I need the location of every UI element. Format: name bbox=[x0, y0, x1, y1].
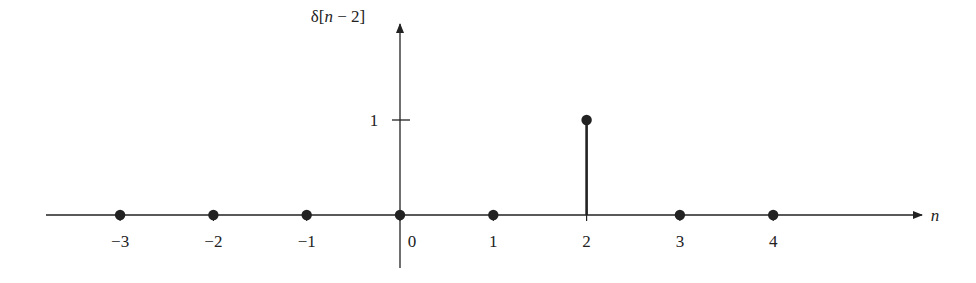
y-tick-label-1: 1 bbox=[370, 111, 379, 130]
stem-marker bbox=[302, 210, 312, 220]
stem-plot: 1 δ[n − 2] n −3−2−101234 bbox=[0, 0, 976, 283]
x-tick-labels: −3−2−101234 bbox=[111, 232, 778, 251]
stem-marker bbox=[395, 210, 405, 220]
x-tick-label: 3 bbox=[676, 232, 685, 251]
x-tick-label: −3 bbox=[111, 232, 129, 251]
x-axis-label: n bbox=[931, 206, 940, 225]
y-axis-label: δ[n − 2] bbox=[311, 7, 365, 26]
x-tick-label: 1 bbox=[489, 232, 498, 251]
x-tick-label: 0 bbox=[408, 232, 417, 251]
stem-marker bbox=[488, 210, 498, 220]
stem-marker bbox=[675, 210, 685, 220]
x-tick-label: −1 bbox=[298, 232, 316, 251]
stem-marker bbox=[115, 210, 125, 220]
x-tick-label: −2 bbox=[204, 232, 222, 251]
x-tick-label: 4 bbox=[769, 232, 778, 251]
stem-marker bbox=[208, 210, 218, 220]
x-tick-label: 2 bbox=[582, 232, 591, 251]
stem-marker bbox=[581, 115, 591, 125]
stem-marker bbox=[768, 210, 778, 220]
stem-series bbox=[115, 115, 779, 221]
